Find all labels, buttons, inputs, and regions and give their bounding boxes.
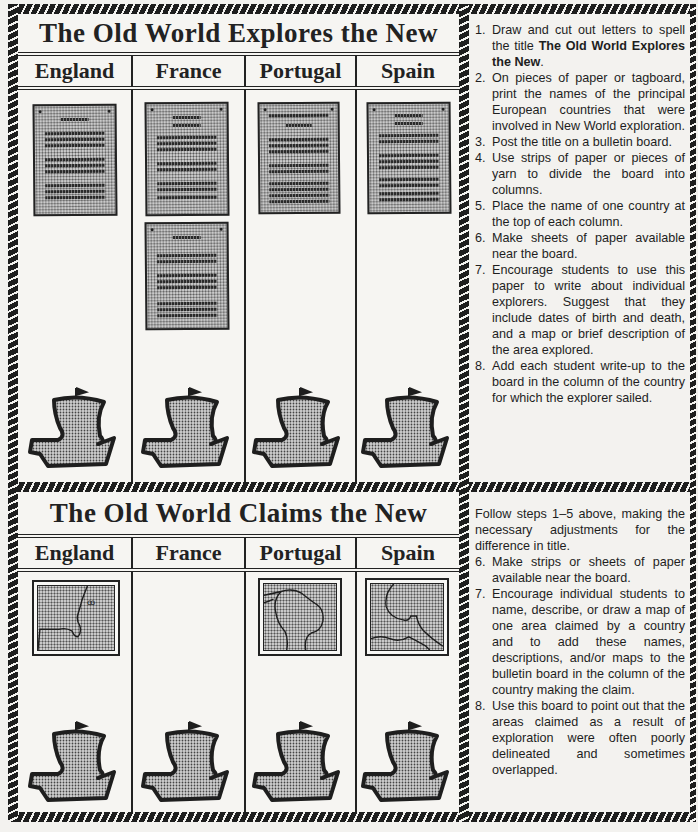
claims-columns: ꝏ — [18, 572, 459, 812]
border-middle — [12, 482, 696, 492]
instruction-list: 1.Draw and cut out letters to spell the … — [475, 22, 685, 406]
claims-board-title: The Old World Claims the New — [18, 492, 459, 534]
header-portugal: Portugal — [246, 538, 357, 568]
instruction-list: 6.Make strips or sheets of paper availab… — [475, 554, 685, 778]
step-8: 8.Add each student write-up to the board… — [475, 358, 685, 406]
explores-board-title: The Old World Explores the New — [18, 14, 459, 52]
column-portugal — [246, 572, 357, 812]
document-icon — [33, 104, 118, 217]
border-bottom — [12, 812, 696, 822]
step-7: 7.Encourage students to use this paper t… — [475, 262, 685, 358]
claims-board: The Old World Claims the New England Fra… — [18, 492, 459, 812]
document-icon — [145, 222, 230, 331]
column-england: ꝏ — [18, 572, 133, 812]
column-portugal — [246, 90, 357, 482]
explores-header-row: England France Portugal Spain — [18, 52, 459, 90]
ship-icon — [250, 718, 342, 804]
step-4: 4.Use strips of paper or pieces of yarn … — [475, 150, 685, 198]
explores-board: The Old World Explores the New England F… — [18, 14, 459, 482]
map-icon — [365, 578, 449, 656]
ship-icon — [359, 718, 451, 804]
document-icon — [367, 102, 452, 215]
ship-icon — [250, 384, 342, 470]
ship-icon — [26, 718, 118, 804]
claims-header-row: England France Portugal Spain — [18, 534, 459, 572]
document-icon — [258, 102, 341, 215]
explores-columns — [18, 90, 459, 482]
step-1: 1.Draw and cut out letters to spell the … — [475, 22, 685, 70]
explores-instructions: 1.Draw and cut out letters to spell the … — [475, 22, 685, 406]
header-england: England — [18, 538, 133, 568]
step-8: 8.Use this board to point out that the a… — [475, 698, 685, 778]
ship-icon — [26, 384, 118, 470]
ship-icon — [139, 384, 231, 470]
map-icon — [258, 578, 342, 656]
column-france — [133, 90, 246, 482]
ship-icon — [359, 384, 451, 470]
claims-instructions: Follow steps 1–5 above, making the neces… — [475, 506, 685, 778]
step-7: 7.Encourage individual students to name,… — [475, 586, 685, 698]
column-spain — [357, 572, 459, 812]
header-france: France — [133, 538, 246, 568]
document-icon — [145, 102, 230, 217]
step-6: 6.Make strips or sheets of paper availab… — [475, 554, 685, 586]
header-england: England — [18, 56, 133, 86]
map-icon: ꝏ — [32, 580, 120, 656]
step-3: 3.Post the title on a bulletin board. — [475, 134, 685, 150]
claims-intro: Follow steps 1–5 above, making the neces… — [475, 506, 685, 554]
step-6: 6.Make sheets of paper available near th… — [475, 230, 685, 262]
step-2: 2.On pieces of paper or tagboard, print … — [475, 70, 685, 134]
header-spain: Spain — [357, 56, 459, 86]
header-france: France — [133, 56, 246, 86]
header-spain: Spain — [357, 538, 459, 568]
column-france — [133, 572, 246, 812]
border-right — [690, 4, 696, 822]
border-divider — [459, 4, 469, 822]
border-top — [12, 4, 696, 14]
column-spain — [357, 90, 459, 482]
column-england — [18, 90, 133, 482]
ship-icon — [139, 718, 231, 804]
svg-text:ꝏ: ꝏ — [87, 597, 96, 607]
border-left — [8, 4, 18, 822]
step-5: 5.Place the name of one country at the t… — [475, 198, 685, 230]
header-portugal: Portugal — [246, 56, 357, 86]
